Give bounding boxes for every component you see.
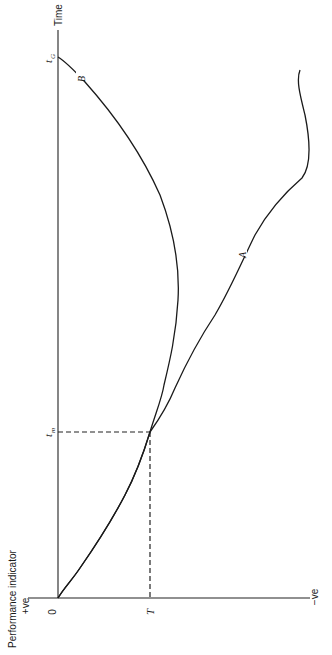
performance-chart: Time Performance indicator +ve −ve 0 T t… [0, 0, 332, 655]
svg-text:G: G [49, 54, 57, 59]
svg-text:m: m [49, 428, 57, 433]
curve-a-label: A [237, 251, 248, 259]
performance-axis-label: Performance indicator [7, 550, 18, 648]
origin-label: 0 [47, 609, 58, 615]
T-label: T [144, 608, 156, 615]
curve-b [58, 57, 178, 598]
tg-label: t G [42, 54, 57, 63]
plus-ve-label: +ve [20, 597, 31, 614]
minus-ve-label: −ve [309, 588, 320, 605]
time-axis-label: Time [53, 4, 64, 26]
tm-label: t m [42, 428, 57, 437]
curve-b-label: B [76, 76, 87, 82]
curve-a [58, 70, 309, 598]
